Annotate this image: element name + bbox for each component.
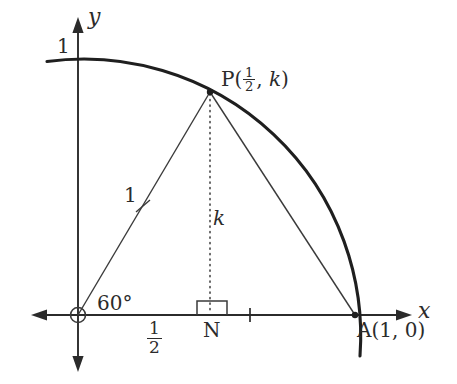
point-p-dot xyxy=(207,89,213,95)
y-axis-bottom-arrowhead xyxy=(72,356,83,372)
point-n-label: N xyxy=(203,320,221,340)
point-p-fraction: 12 xyxy=(243,66,255,94)
y-axis-unit-label: 1 xyxy=(57,36,70,56)
x-half-label: 1 2 xyxy=(147,320,162,357)
y-axis-top-arrowhead xyxy=(72,17,83,33)
point-p-label-prefix: P( xyxy=(221,67,242,91)
x-axis-left-arrowhead xyxy=(31,309,47,320)
x-half-denominator: 2 xyxy=(147,339,162,357)
y-axis-label: y xyxy=(88,6,100,28)
chord-pa-line xyxy=(210,92,355,315)
point-p-fraction-numerator: 1 xyxy=(243,66,255,80)
point-p-label-suffix: ) xyxy=(281,67,289,91)
radius-length-tick xyxy=(136,200,150,212)
point-p-label-variable: k xyxy=(269,67,281,91)
right-angle-marker xyxy=(197,301,227,315)
point-p-label: P(12, k) xyxy=(221,66,289,94)
point-p-fraction-denominator: 2 xyxy=(243,80,255,93)
point-a-label: A(1, 0) xyxy=(357,320,425,340)
radius-op-line xyxy=(78,92,210,315)
angle-label: 60° xyxy=(97,293,132,313)
geometry-figure: y x 1 P(12, k) 1 k 60° 1 2 N A(1, 0) xyxy=(0,0,457,384)
height-label: k xyxy=(213,208,225,228)
point-p-label-separator: , xyxy=(256,67,269,91)
radius-length-label: 1 xyxy=(124,185,137,205)
